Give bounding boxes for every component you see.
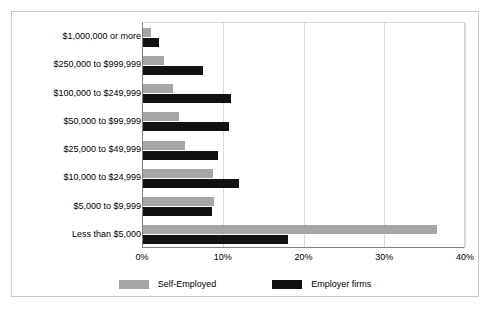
category-label: $5,000 to $9,999 <box>0 201 141 211</box>
x-tick-label: 0% <box>122 252 162 262</box>
category-label: $10,000 to $24,999 <box>0 172 141 182</box>
legend-label: Self-Employed <box>158 279 217 289</box>
bar-employer-firms <box>143 94 231 103</box>
category-label: Less than $5,000 <box>0 229 141 239</box>
category-label: $250,000 to $999,999 <box>0 59 141 69</box>
bar-self-employed <box>143 225 437 234</box>
bar-group <box>143 193 464 221</box>
bar-self-employed <box>143 169 213 178</box>
bar-self-employed <box>143 112 179 121</box>
category-label: $1,000,000 or more <box>0 31 141 41</box>
bar-group <box>143 221 464 249</box>
bar-employer-firms <box>143 151 218 160</box>
bar-group <box>143 136 464 164</box>
chart-legend: Self-EmployedEmployer firms <box>12 274 478 294</box>
bar-employer-firms <box>143 179 239 188</box>
bar-employer-firms <box>143 235 288 244</box>
bar-self-employed <box>143 197 214 206</box>
bar-group <box>143 108 464 136</box>
bar-employer-firms <box>143 207 212 216</box>
bar-rows <box>143 23 464 247</box>
bar-self-employed <box>143 28 151 37</box>
legend-swatch <box>272 280 302 289</box>
x-tick-label: 10% <box>203 252 243 262</box>
bar-group <box>143 51 464 79</box>
category-label: $50,000 to $99,999 <box>0 116 141 126</box>
gridline-40 <box>465 23 466 247</box>
legend-item-self-employed[interactable]: Self-Employed <box>119 279 217 289</box>
bar-group <box>143 164 464 192</box>
bar-employer-firms <box>143 38 159 47</box>
bar-employer-firms <box>143 122 229 131</box>
x-tick-label: 20% <box>284 252 324 262</box>
bar-self-employed <box>143 141 185 150</box>
category-label: $100,000 to $249,999 <box>0 88 141 98</box>
plot-area <box>142 22 465 248</box>
x-tick-label: 30% <box>364 252 404 262</box>
category-label: $25,000 to $49,999 <box>0 144 141 154</box>
chart-figure: $1,000,000 or more$250,000 to $999,999$1… <box>11 11 479 297</box>
legend-item-employer-firms[interactable]: Employer firms <box>272 279 371 289</box>
bar-self-employed <box>143 84 173 93</box>
x-tick-label: 40% <box>445 252 485 262</box>
bar-employer-firms <box>143 66 203 75</box>
bar-group <box>143 80 464 108</box>
bar-self-employed <box>143 56 164 65</box>
legend-label: Employer firms <box>311 279 371 289</box>
bar-group <box>143 23 464 51</box>
legend-swatch <box>119 280 149 289</box>
